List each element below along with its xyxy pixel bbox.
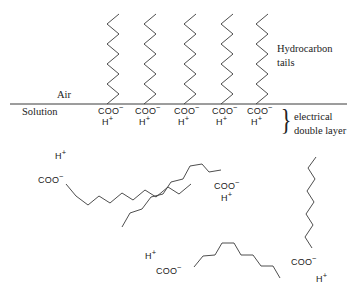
air-label: Air bbox=[57, 90, 71, 101]
solution-label: Solution bbox=[22, 107, 58, 118]
monolayer-proton-2: H+ bbox=[139, 118, 150, 127]
bulk-molecule-3-chain bbox=[194, 243, 280, 278]
bulk-molecule-4-carboxylate: COO− bbox=[291, 258, 317, 267]
monolayer-proton-3: H+ bbox=[178, 118, 189, 127]
bulk-molecule-1-proton: H+ bbox=[55, 152, 66, 161]
bulk-molecule-4-chain bbox=[305, 157, 316, 248]
electrical-double-layer-brace: } bbox=[281, 104, 292, 134]
bulk-molecule-3-carboxylate: COO− bbox=[156, 267, 182, 276]
bulk-molecule-2-proton: H+ bbox=[221, 194, 232, 203]
hydrocarbon-tails-line-2: tails bbox=[277, 56, 332, 70]
monolayer-proton-1: H+ bbox=[102, 118, 113, 127]
electrical-double-layer-line-1: electrical bbox=[294, 110, 346, 124]
hydrocarbon-tails-line-1: Hydrocarbon bbox=[277, 42, 332, 56]
bulk-molecule-1-carboxylate: COO− bbox=[38, 176, 64, 185]
surfactant-interface-diagram: Air Solution Hydrocarbon tails } electri… bbox=[0, 0, 357, 290]
monolayer-proton-4: H+ bbox=[216, 118, 227, 127]
bulk-molecule-3-proton: H+ bbox=[145, 252, 156, 261]
electrical-double-layer-annotation: electrical double layer bbox=[294, 110, 346, 138]
bulk-molecule-1-chain bbox=[66, 184, 191, 205]
bulk-molecule-2-chain bbox=[122, 164, 221, 227]
monolayer-proton-5: H+ bbox=[251, 118, 262, 127]
bulk-molecule-4-proton: H+ bbox=[316, 275, 327, 284]
hydrocarbon-tails-annotation: Hydrocarbon tails bbox=[277, 42, 332, 70]
electrical-double-layer-line-2: double layer bbox=[294, 124, 346, 138]
